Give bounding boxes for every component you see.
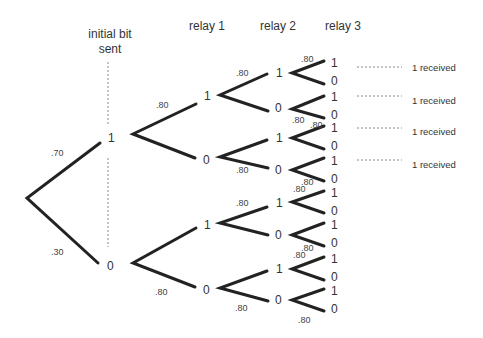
node-relay1-0b: 0 <box>203 284 210 296</box>
node-relay2-5: 1 <box>276 197 283 209</box>
prob-relay3-3: .80 <box>310 121 323 130</box>
header-initial-line1: initial bit <box>80 28 140 40</box>
outcome-received-1: 1 received <box>412 63 456 73</box>
node-relay3-8: 0 <box>331 173 338 185</box>
node-relay1-1b: 1 <box>204 219 211 231</box>
prob-relay1-b: .80 <box>155 288 168 297</box>
node-relay3-4: 0 <box>331 109 338 121</box>
outcome-received-4: 1 received <box>412 160 456 170</box>
node-relay2-6: 0 <box>275 229 282 241</box>
prob-relay3-7: .80 <box>293 251 306 260</box>
branch-relay2-8 <box>292 289 324 311</box>
node-relay2-4: 0 <box>275 164 282 176</box>
node-relay3-12: 0 <box>331 237 338 249</box>
prob-relay3-2: .80 <box>292 116 305 125</box>
prob-relay2-b: .80 <box>236 166 249 175</box>
outcome-received-3: 1 received <box>412 127 456 137</box>
node-relay2-8: 0 <box>275 294 282 306</box>
prob-root-upper: .70 <box>51 149 64 158</box>
branch-relay1-b <box>220 140 268 168</box>
node-relay3-6: 0 <box>331 140 338 152</box>
branch-relay2-5 <box>292 191 324 213</box>
node-relay2-2: 0 <box>275 102 282 114</box>
prob-relay3-1: .80 <box>301 55 314 64</box>
prob-relay3-5: .80 <box>293 185 306 194</box>
node-relay2-1: 1 <box>276 67 283 79</box>
branch-relay2-1 <box>292 61 324 84</box>
node-relay3-9: 1 <box>331 187 338 199</box>
node-relay3-11: 1 <box>331 219 338 231</box>
node-relay3-13: 1 <box>331 253 338 265</box>
node-relay2-3: 1 <box>276 132 283 144</box>
root-branch <box>27 143 100 263</box>
branch-relay1-d <box>220 271 268 301</box>
node-relay3-10: 0 <box>331 205 338 217</box>
node-relay3-7: 1 <box>331 155 338 167</box>
node-relay2-7: 1 <box>276 263 283 275</box>
prob-relay3-8: .80 <box>298 316 311 325</box>
prob-relay2-d: .80 <box>235 304 248 313</box>
outcome-received-2: 1 received <box>412 96 456 106</box>
node-relay3-16: 0 <box>331 303 338 315</box>
node-relay3-5: 1 <box>331 122 338 134</box>
branch-initial-0 <box>133 228 196 287</box>
header-relay2: relay 2 <box>260 20 296 32</box>
branch-initial-1 <box>133 104 196 158</box>
node-relay3-3: 1 <box>331 91 338 103</box>
node-relay3-2: 0 <box>331 75 338 87</box>
header-relay3: relay 3 <box>325 20 361 32</box>
header-initial-line2: sent <box>80 43 140 55</box>
branch-relay1-c <box>220 207 268 235</box>
node-relay3-1: 1 <box>331 57 338 69</box>
node-relay1-1a: 1 <box>204 90 211 102</box>
prob-relay1-a: .80 <box>156 101 169 110</box>
prob-root-lower: .30 <box>51 248 64 257</box>
node-initial-0: 0 <box>107 260 114 272</box>
node-initial-1: 1 <box>108 132 115 144</box>
node-relay3-15: 1 <box>331 285 338 297</box>
branch-relay2-7 <box>292 257 324 280</box>
branch-relay1-a <box>220 74 268 111</box>
node-relay3-14: 0 <box>331 271 338 283</box>
prob-relay2-c: .80 <box>236 199 249 208</box>
prob-relay2-a: .80 <box>236 69 249 78</box>
node-relay1-0a: 0 <box>203 154 210 166</box>
header-relay1: relay 1 <box>189 20 225 32</box>
